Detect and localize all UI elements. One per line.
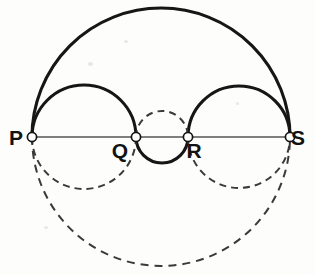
vertex-labels-layer: PQRS bbox=[9, 126, 305, 162]
vertex-label-s: S bbox=[291, 126, 305, 149]
semicircle-PQ-upper bbox=[32, 85, 136, 137]
large-semicircle-PS-upper bbox=[32, 8, 290, 137]
semicircle-QR-lower bbox=[136, 137, 188, 163]
semicircle-RS-lower-dashed bbox=[188, 137, 290, 188]
diagram-canvas: PQRS bbox=[0, 0, 315, 275]
vertex-marker-p bbox=[27, 132, 36, 141]
large-semicircle-PS-lower-dashed bbox=[32, 137, 290, 266]
vertex-label-p: P bbox=[9, 126, 23, 149]
vertex-label-r: R bbox=[186, 139, 201, 162]
semicircle-RS-upper bbox=[188, 86, 290, 137]
geometry-figure: PQRS bbox=[0, 0, 315, 275]
semicircle-QR-upper-dashed bbox=[136, 111, 188, 137]
vertex-label-q: Q bbox=[112, 139, 128, 162]
vertex-marker-q bbox=[131, 132, 140, 141]
